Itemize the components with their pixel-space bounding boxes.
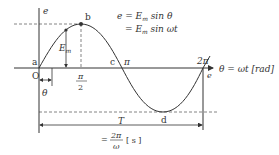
peak-point-b: [79, 22, 83, 26]
period-num: 2π: [110, 131, 122, 140]
equation-line-2: = Em sin ωt: [125, 24, 178, 35]
point-d-label: d: [161, 115, 167, 125]
pi-half-numerator: π: [77, 72, 84, 81]
right-e-label: e: [207, 71, 212, 80]
point-b-label: b: [85, 12, 91, 22]
sine-wave-diagram: e b a O c π 2π d Em π 2 θ e θ = ωt [rad]…: [0, 0, 279, 155]
amplitude-label: Em: [58, 43, 72, 54]
origin-label: O: [32, 71, 39, 81]
period-unit: [ s ]: [126, 136, 141, 145]
period-label: T: [118, 116, 125, 126]
amplitude-point: [64, 28, 67, 31]
equation-line-1: e = Em sin θ: [117, 11, 173, 22]
y-axis-label: e: [43, 6, 48, 16]
period-eq: =: [101, 135, 108, 144]
point-a-label: a: [32, 57, 38, 67]
theta-label: θ: [42, 88, 48, 98]
pi-half-denominator: 2: [78, 83, 83, 92]
two-pi-tick-label: 2π: [196, 56, 210, 66]
point-c-label: c: [110, 57, 115, 67]
period-den: ω: [113, 142, 120, 151]
pi-tick-label: π: [123, 57, 131, 67]
x-axis-label: θ = ωt [rad]: [219, 64, 274, 74]
